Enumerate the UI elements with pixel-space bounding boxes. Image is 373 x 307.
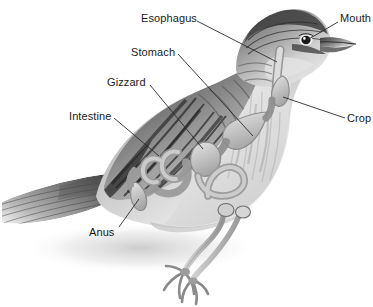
label-esophagus: Esophagus <box>141 12 197 24</box>
beak <box>320 37 356 52</box>
label-anus: Anus <box>89 226 114 238</box>
bird-illustration <box>0 0 373 307</box>
head <box>236 9 356 87</box>
label-crop: Crop <box>347 112 371 124</box>
label-stomach: Stomach <box>131 46 175 58</box>
leader-line-crop <box>283 97 345 118</box>
label-mouth: Mouth <box>340 12 371 24</box>
bird-digestive-system-diagram: Esophagus Stomach Gizzard Intestine Anus… <box>0 0 373 307</box>
label-gizzard: Gizzard <box>107 76 146 88</box>
label-intestine: Intestine <box>69 110 111 122</box>
